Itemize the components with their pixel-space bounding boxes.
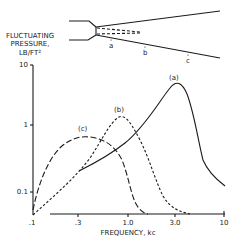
nozzle-upper-wall [69, 21, 96, 27]
x-tick-3.0: 3.0 [169, 219, 180, 227]
x-tick-0.1: .1 [29, 219, 36, 227]
curve-c [33, 137, 148, 214]
svg-text:LB/FT²: LB/FT² [19, 49, 41, 57]
jet-lower-boundary [96, 35, 220, 58]
x-tick-1.0: 1.0 [122, 219, 133, 227]
jet-core-lower [97, 33, 140, 34]
curve-b [33, 117, 190, 215]
svg-text:PRESSURE,: PRESSURE, [10, 40, 49, 48]
jet-nozzle-diagram: a b c [69, 11, 220, 65]
curve-c-label: (c) [78, 125, 88, 133]
curve-a [79, 83, 225, 186]
jet-core-upper [97, 28, 140, 32]
y-tick-10: 10 [19, 61, 28, 69]
y-tick-1: 1 [24, 121, 28, 129]
series-curves: (a) (b) (c) [33, 74, 225, 215]
x-axis-label: FREQUENCY, kc [101, 229, 156, 237]
x-tick-10: 10 [220, 219, 229, 227]
station-a-label: a [109, 42, 113, 50]
figure: a b c FLUCTUATING PRESSURE, LB/FT² 10 1 … [0, 0, 242, 244]
station-c-label: c [186, 57, 190, 65]
station-b-label: b [143, 49, 148, 57]
nozzle-lower-wall [69, 35, 96, 40]
axes: 10 1 0.1 .1 .3 1.0 3.0 10 FREQUENCY, kc [17, 61, 229, 237]
y-axis-label: FLUCTUATING PRESSURE, LB/FT² [6, 32, 54, 57]
curve-b-label: (b) [114, 106, 124, 114]
x-tick-0.3: .3 [75, 219, 82, 227]
curve-a-label: (a) [169, 74, 179, 82]
svg-text:FLUCTUATING: FLUCTUATING [6, 32, 54, 40]
jet-upper-boundary [96, 11, 220, 27]
y-tick-0.1: 0.1 [17, 188, 28, 196]
